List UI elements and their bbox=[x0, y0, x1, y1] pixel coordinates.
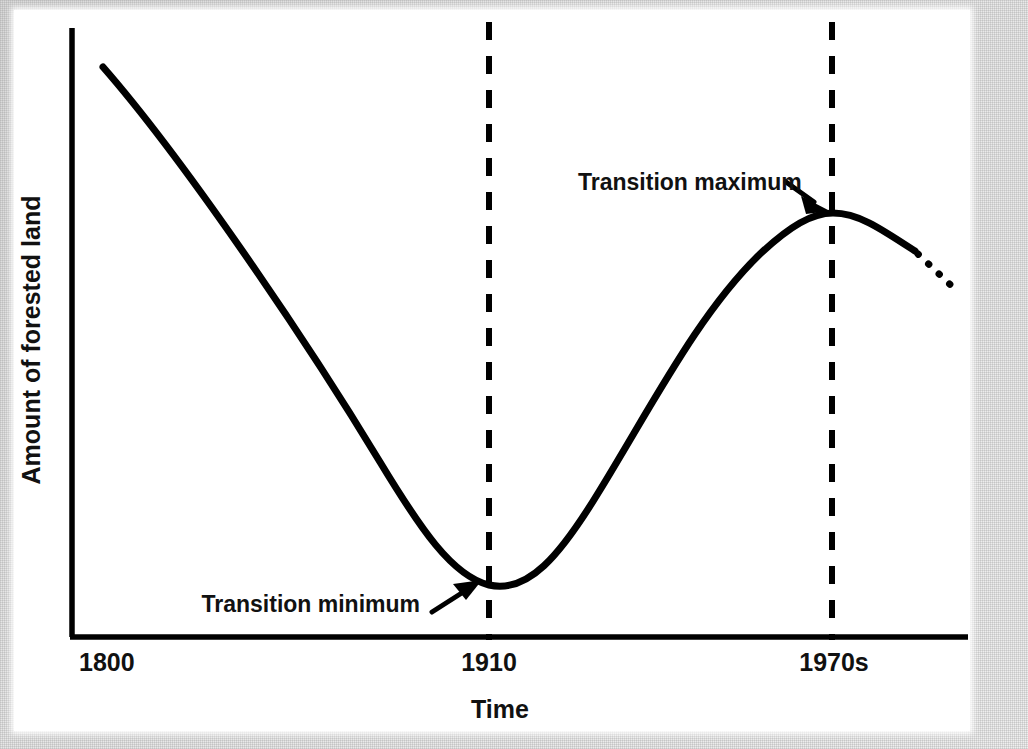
marker-lines bbox=[489, 22, 832, 640]
x-tick-label-1910: 1910 bbox=[461, 648, 517, 676]
x-axis-title: Time bbox=[471, 695, 529, 723]
y-axis-title: Amount of forested land bbox=[17, 196, 45, 485]
annotation-transition-minimum: Transition minimum bbox=[201, 580, 482, 617]
annotation-transition-maximum: Transition maximum bbox=[578, 169, 830, 214]
curve-dotted-continuation bbox=[918, 254, 958, 292]
scanned-page-background: Transition minimum Transition maximum 18… bbox=[0, 0, 1028, 749]
transition-minimum-label: Transition minimum bbox=[201, 591, 420, 617]
x-tick-labels: 1800 1910 1970s bbox=[79, 648, 869, 676]
transition-maximum-arrow-head bbox=[801, 196, 830, 214]
transition-maximum-label: Transition maximum bbox=[578, 169, 802, 195]
x-tick-label-1800: 1800 bbox=[79, 648, 135, 676]
forest-transition-chart: Transition minimum Transition maximum 18… bbox=[0, 0, 1028, 749]
x-tick-label-1970s: 1970s bbox=[799, 648, 869, 676]
curve-solid-segment bbox=[103, 67, 915, 586]
